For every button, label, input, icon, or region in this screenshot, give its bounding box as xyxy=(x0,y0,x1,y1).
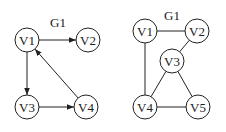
node-label: V1 xyxy=(19,33,35,48)
node-v2: V2 xyxy=(185,19,209,43)
graph-label: G1 xyxy=(164,8,180,23)
node-label: V4 xyxy=(137,100,153,115)
graph-diagram-svg: V1V2V3V4G1 V1V2V3V4V5G1 xyxy=(0,0,226,132)
node-v3: V3 xyxy=(15,95,39,119)
node-v4: V4 xyxy=(74,95,98,119)
node-v1: V1 xyxy=(133,19,157,43)
node-v2: V2 xyxy=(76,28,100,52)
undirected-graph-g1: V1V2V3V4V5G1 xyxy=(133,8,210,119)
node-label: V4 xyxy=(78,100,94,115)
graph-diagram: V1V2V3V4G1 V1V2V3V4V5G1 xyxy=(0,0,226,132)
node-label: V2 xyxy=(80,33,96,48)
graph-label: G1 xyxy=(50,15,66,30)
node-v3: V3 xyxy=(160,49,184,73)
node-label: V5 xyxy=(190,100,206,115)
node-label: V3 xyxy=(164,54,180,69)
node-label: V1 xyxy=(137,24,153,39)
node-label: V3 xyxy=(19,100,35,115)
edge-v3-v5 xyxy=(178,71,192,96)
edge-v3-v4 xyxy=(151,71,166,96)
edge-v2-v3 xyxy=(180,40,190,52)
node-v4: V4 xyxy=(133,95,157,119)
edge-v4-v1 xyxy=(35,49,78,98)
directed-graph-g1: V1V2V3V4G1 xyxy=(15,15,100,119)
node-label: V2 xyxy=(189,24,205,39)
node-v1: V1 xyxy=(15,28,39,52)
node-v5: V5 xyxy=(186,95,210,119)
